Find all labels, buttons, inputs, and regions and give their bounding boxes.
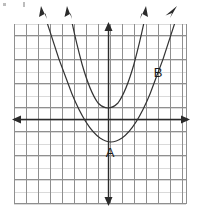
curve-B-left-arrowhead: [65, 6, 73, 19]
x-axis-right-arrowhead: [181, 116, 190, 124]
grid-vertical-lines: [15, 24, 187, 204]
curve-label-A: A: [106, 145, 115, 160]
grid-minor-horizontal-lines: [14, 25, 186, 205]
y-axis-up-arrowhead: [105, 22, 113, 31]
curve-A-left-arrowhead: [39, 6, 47, 19]
curve-label-B: B: [154, 65, 163, 80]
parabola-graph-figure: A B: [0, 0, 199, 211]
x-axis-left-arrowhead: [12, 116, 21, 124]
curve-A-right-arrowhead: [140, 6, 148, 19]
curve-A-arrowheads: [39, 6, 148, 19]
curve-B-arrowheads: [65, 6, 178, 19]
graph-canvas: A B: [0, 0, 199, 211]
y-axis: [105, 22, 113, 206]
curve-B-right-arrowhead: [166, 6, 178, 18]
